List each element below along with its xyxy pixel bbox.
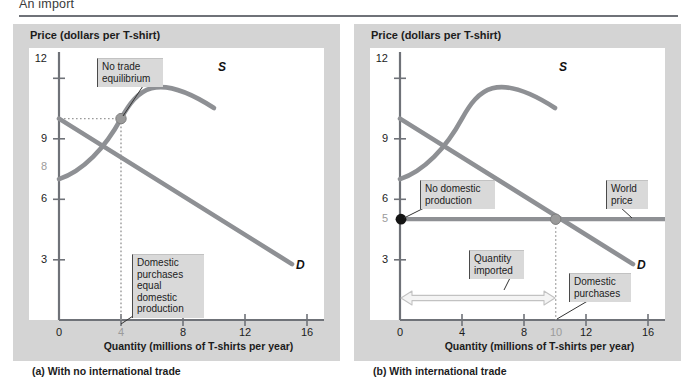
quantity-imported-arrow (401, 291, 555, 305)
y-tick-label: 9 (362, 132, 388, 144)
callout-domestic-purchases: Domestic purchases (569, 273, 631, 302)
y-tick-label: 3 (21, 253, 47, 265)
demand-curve-label: D (637, 258, 646, 272)
callout-domestic-purchases-equal-production: Domestic purchases equal domestic produc… (132, 254, 204, 318)
y-tick-label: 3 (362, 253, 388, 265)
supply-curve-label: S (559, 60, 567, 74)
y-tick-label-highlight: 5 (362, 212, 388, 224)
x-tick-label: 8 (511, 326, 537, 338)
demand-curve-label: D (296, 258, 305, 272)
callout-no-domestic-production: No domestic production (420, 180, 495, 209)
x-tick-label: 0 (46, 326, 72, 338)
x-axis-title-b: Quantity (millions of T-shirts per year) (354, 340, 681, 352)
x-tick-label: 0 (387, 326, 413, 338)
x-tick-label: 12 (573, 326, 599, 338)
chart-panel-a: Price (dollars per T-shirt) 12 9 8 6 (13, 24, 340, 361)
supply-curve-label: S (218, 60, 226, 74)
y-tick-label: 6 (21, 192, 47, 204)
panel-caption-b: (b) With international trade (373, 365, 507, 377)
callout-quantity-imported: Quantity imported (469, 250, 524, 279)
page-title: An import (19, 0, 74, 11)
x-tick-label: 12 (232, 326, 258, 338)
callout-world-price: World price (606, 180, 648, 209)
x-tick-label-highlight: 4 (108, 326, 134, 338)
y-tick-label-highlight: 8 (21, 160, 47, 172)
x-tick-label: 16 (635, 326, 661, 338)
x-tick-label: 4 (449, 326, 475, 338)
callout-no-trade-equilibrium: No trade equilibrium (97, 58, 163, 87)
y-tick-label: 9 (21, 132, 47, 144)
x-tick-label: 16 (294, 326, 320, 338)
x-tick-label-highlight: 10 (543, 326, 569, 338)
chart-panel-b: Price (dollars per T-shirt) (354, 24, 681, 361)
x-axis-title-a: Quantity (millions of T-shirts per year) (13, 340, 340, 352)
y-tick-label: 12 (362, 52, 388, 64)
header-divider (19, 15, 678, 17)
y-tick-label: 6 (362, 192, 388, 204)
y-tick-label: 12 (21, 52, 47, 64)
panel-caption-a: (a) With no international trade (32, 365, 181, 377)
x-tick-label: 8 (170, 326, 196, 338)
